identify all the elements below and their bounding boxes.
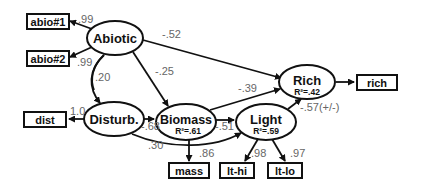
- obs-dist: dist: [24, 112, 66, 127]
- node-label: Abiotic: [93, 31, 137, 46]
- obs-label: abio#2: [31, 53, 66, 65]
- sem-diagram: Abiotic Disturb. Biomass R²=.61 Light R²…: [0, 0, 421, 194]
- coef-disturb-biomass: -.68: [141, 120, 160, 132]
- obs-label: lt-hi: [227, 165, 247, 177]
- obs-label: mass: [175, 165, 203, 177]
- obs-label: rich: [367, 77, 387, 89]
- coef-disturb-light: .30: [148, 139, 163, 151]
- r2-label: R²=.59: [253, 126, 279, 136]
- coef-biomass-rich: -.39: [238, 82, 257, 94]
- obs-label: dist: [35, 114, 55, 126]
- edge-light-ltlo: [272, 139, 285, 161]
- node-label: Light: [250, 112, 282, 127]
- obs-abio1: abio#1: [27, 14, 69, 29]
- coef-light-lthi: .98: [251, 147, 266, 159]
- node-disturb: Disturb.: [84, 102, 144, 136]
- obs-lthi: lt-hi: [220, 163, 254, 178]
- coef-biomass-light: -.51: [215, 120, 234, 132]
- node-biomass: Biomass R²=.61: [156, 104, 216, 140]
- edge-abiotic-biomass: [133, 52, 168, 106]
- coef-biomass-mass: .86: [199, 147, 214, 159]
- r2-label: R²=.42: [294, 87, 320, 97]
- node-label: Biomass: [160, 113, 212, 127]
- obs-label: abio#1: [31, 16, 66, 28]
- obs-mass: mass: [169, 163, 209, 178]
- r2-label: R²=.61: [175, 126, 201, 136]
- node-label: Rich: [293, 73, 321, 88]
- obs-ltlo: lt-lo: [268, 163, 302, 178]
- coef-abiotic-abio1: .99: [78, 13, 93, 25]
- obs-rich: rich: [357, 75, 397, 90]
- coef-abiotic-rich: -.52: [162, 28, 181, 40]
- obs-label: lt-lo: [275, 165, 295, 177]
- coef-disturb-dist: 1.0: [70, 105, 85, 117]
- coef-abiotic-biomass: -.25: [155, 65, 174, 77]
- obs-abio2: abio#2: [27, 51, 69, 66]
- node-rich: Rich R²=.42: [279, 65, 335, 99]
- coef-light-rich: -.57(+/-): [300, 101, 339, 113]
- node-abiotic: Abiotic: [87, 21, 143, 55]
- node-label: Disturb.: [89, 112, 138, 127]
- node-light: Light R²=.59: [236, 104, 296, 140]
- coef-abiotic-abio2: .99: [77, 56, 92, 68]
- coef-abiotic-disturb: .20: [95, 71, 110, 83]
- coef-light-ltlo: .97: [290, 147, 305, 159]
